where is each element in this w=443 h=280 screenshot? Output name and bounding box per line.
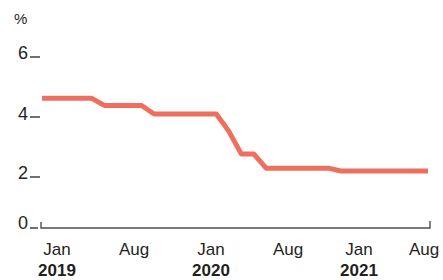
x-axis-line (41, 221, 430, 228)
series-line-rate (42, 98, 428, 171)
x-tick-year-2: 2020 (176, 262, 246, 279)
y-tick-label-4: 4 (8, 105, 28, 123)
y-tick-label-2: 2 (8, 164, 28, 182)
x-tick-year-4: 2021 (324, 262, 394, 279)
y-axis-ticks (30, 57, 40, 228)
x-tick-month-3: Aug (258, 241, 318, 258)
x-tick-month-2: Jan (181, 241, 241, 258)
y-tick-label-0: 0 (8, 214, 28, 232)
y-axis-unit-label: % (14, 11, 27, 26)
x-tick-month-1: Aug (104, 241, 164, 258)
x-tick-month-5: Aug (394, 241, 443, 258)
x-tick-month-4: Jan (329, 241, 389, 258)
y-tick-label-6: 6 (8, 44, 28, 62)
x-tick-month-0: Jan (27, 241, 87, 258)
x-tick-year-0: 2019 (22, 262, 92, 279)
